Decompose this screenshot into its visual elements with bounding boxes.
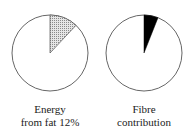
fibre-caption-line1: Fibre [96,103,192,116]
fibre-caption-line2: contribution [96,116,192,129]
pie-charts [0,0,193,100]
fibre-pie-caption: Fibre contribution [96,103,192,129]
energy-pie [12,15,88,91]
fibre-pie [106,15,182,91]
energy-caption-line1: Energy [2,103,98,116]
energy-caption-line2: from fat 12% [2,116,98,129]
energy-pie-caption: Energy from fat 12% [2,103,98,129]
